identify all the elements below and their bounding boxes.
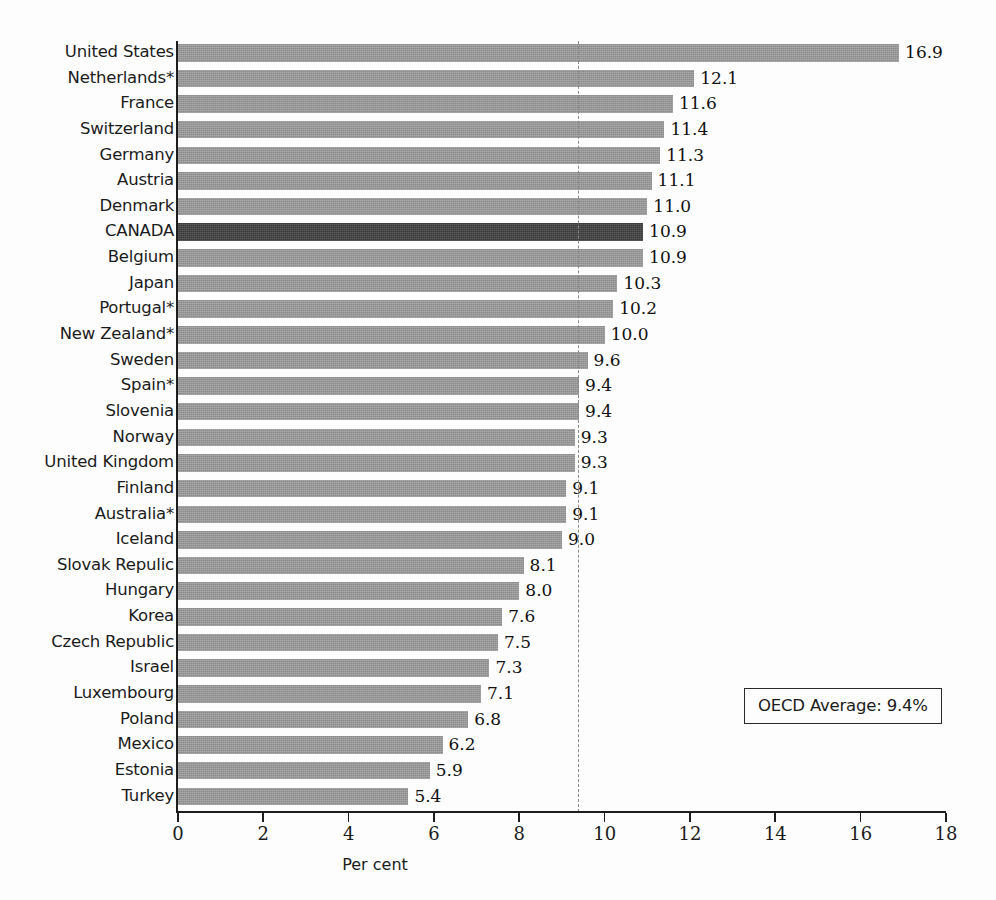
chart-container: United States16.9Netherlands*12.1France1… xyxy=(0,0,996,900)
bar-row: Sweden9.6 xyxy=(0,348,996,374)
category-label: Israel xyxy=(0,656,174,677)
x-tick xyxy=(518,813,520,822)
category-label: Korea xyxy=(0,605,174,626)
x-tick xyxy=(177,813,179,822)
category-label: CANADA xyxy=(0,220,174,241)
category-label: Spain* xyxy=(0,374,174,395)
x-tick-label: 8 xyxy=(489,823,549,844)
category-label: Estonia xyxy=(0,759,174,780)
bar xyxy=(178,531,562,549)
bar-row: Slovak Repulic8.1 xyxy=(0,553,996,579)
bar-row: New Zealand*10.0 xyxy=(0,322,996,348)
bar-value-label: 10.3 xyxy=(623,273,661,294)
x-tick-label: 2 xyxy=(233,823,293,844)
bar xyxy=(178,454,575,472)
x-tick-label: 6 xyxy=(404,823,464,844)
x-tick xyxy=(774,813,776,822)
bar-value-label: 5.9 xyxy=(436,760,463,781)
bar-value-label: 10.9 xyxy=(649,247,687,268)
category-label: Finland xyxy=(0,477,174,498)
bar-row: Czech Republic7.5 xyxy=(0,630,996,656)
bar xyxy=(178,249,643,267)
category-label: Austria xyxy=(0,169,174,190)
category-label: Netherlands* xyxy=(0,67,174,88)
x-tick xyxy=(262,813,264,822)
bar-value-label: 11.6 xyxy=(679,93,717,114)
bar-value-label: 8.1 xyxy=(530,555,557,576)
x-tick-label: 12 xyxy=(660,823,720,844)
category-label: Turkey xyxy=(0,785,174,806)
bar xyxy=(178,198,647,216)
bar-value-label: 11.1 xyxy=(658,170,696,191)
bar-row: United States16.9 xyxy=(0,40,996,66)
bar-value-label: 16.9 xyxy=(905,42,943,63)
x-tick xyxy=(689,813,691,822)
bar-value-label: 9.6 xyxy=(594,350,621,371)
category-label: Belgium xyxy=(0,246,174,267)
bar-row: Austria11.1 xyxy=(0,168,996,194)
bar-row: Slovenia9.4 xyxy=(0,399,996,425)
category-label: Mexico xyxy=(0,733,174,754)
bar xyxy=(178,736,443,754)
bar-row: Norway9.3 xyxy=(0,425,996,451)
category-label: Sweden xyxy=(0,349,174,370)
bar xyxy=(178,172,652,190)
bar xyxy=(178,557,524,575)
bar-value-label: 7.1 xyxy=(487,683,514,704)
bar xyxy=(178,634,498,652)
bar xyxy=(178,608,502,626)
bar-value-label: 7.6 xyxy=(508,606,535,627)
bar-value-label: 11.3 xyxy=(666,145,704,166)
category-label: Japan xyxy=(0,272,174,293)
bar-value-label: 12.1 xyxy=(700,68,738,89)
bar xyxy=(178,659,489,677)
bar xyxy=(178,429,575,447)
bar-value-label: 9.4 xyxy=(585,375,612,396)
bar xyxy=(178,352,588,370)
category-label: Luxembourg xyxy=(0,682,174,703)
category-label: Slovak Repulic xyxy=(0,554,174,575)
bar xyxy=(178,762,430,780)
bar xyxy=(178,121,664,139)
bar-row: Germany11.3 xyxy=(0,143,996,169)
bar-row: Iceland9.0 xyxy=(0,527,996,553)
bar xyxy=(178,685,481,703)
x-axis-title-text: Per cent xyxy=(342,855,408,874)
bar-row: United Kingdom9.3 xyxy=(0,450,996,476)
x-tick-label: 10 xyxy=(575,823,635,844)
bar-value-label: 7.3 xyxy=(495,657,522,678)
category-label: France xyxy=(0,92,174,113)
bar-value-label: 7.5 xyxy=(504,632,531,653)
bar-row: CANADA10.9 xyxy=(0,219,996,245)
oecd-average-reference-line xyxy=(578,41,579,812)
bar xyxy=(178,300,613,318)
bar-row: Israel7.3 xyxy=(0,655,996,681)
bar xyxy=(178,147,660,165)
bar-row: France11.6 xyxy=(0,91,996,117)
bar xyxy=(178,582,519,600)
y-axis-line xyxy=(176,41,178,812)
bar-row: Korea7.6 xyxy=(0,604,996,630)
category-label: New Zealand* xyxy=(0,323,174,344)
bar-value-label: 10.9 xyxy=(649,221,687,242)
x-tick-label: 0 xyxy=(148,823,208,844)
bar-row: Japan10.3 xyxy=(0,271,996,297)
x-tick xyxy=(604,813,606,822)
bar-row: Mexico6.2 xyxy=(0,732,996,758)
category-label: Portugal* xyxy=(0,297,174,318)
category-label: Poland xyxy=(0,708,174,729)
bar-row: Estonia5.9 xyxy=(0,758,996,784)
bar xyxy=(178,326,605,344)
category-label: United States xyxy=(0,41,174,62)
category-label: United Kingdom xyxy=(0,451,174,472)
bar-highlighted xyxy=(178,223,643,241)
category-label: Denmark xyxy=(0,195,174,216)
bar xyxy=(178,95,673,113)
oecd-average-legend: OECD Average: 9.4% xyxy=(744,688,942,724)
bar-row: Hungary8.0 xyxy=(0,578,996,604)
bar-value-label: 6.2 xyxy=(449,734,476,755)
x-tick-label: 18 xyxy=(916,823,976,844)
bar-row: Switzerland11.4 xyxy=(0,117,996,143)
bar-row: Spain*9.4 xyxy=(0,373,996,399)
category-label: Switzerland xyxy=(0,118,174,139)
